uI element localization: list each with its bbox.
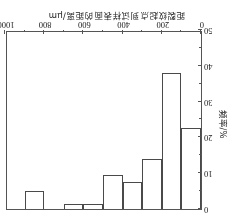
histogram-bar — [142, 159, 162, 209]
histogram-bar — [103, 175, 123, 209]
x-tick-mark — [200, 30, 201, 34]
y-tick-label: 10 — [204, 169, 214, 179]
y-minor-tick-mark — [200, 47, 203, 48]
y-minor-tick-mark — [200, 154, 203, 155]
histogram-bar — [25, 191, 45, 209]
x-tick-mark — [161, 30, 162, 34]
y-tick-mark — [198, 172, 202, 173]
y-tick-mark — [198, 136, 202, 137]
plot-area — [6, 31, 202, 210]
y-minor-tick-mark — [200, 190, 203, 191]
y-tick-label: 30 — [204, 98, 214, 108]
x-minor-tick-mark — [24, 30, 25, 33]
y-tick-mark — [198, 101, 202, 102]
x-tick-label: 200 — [156, 20, 169, 30]
x-tick-mark — [43, 30, 44, 34]
y-tick-label: 20 — [204, 133, 214, 143]
y-tick-mark — [198, 65, 202, 66]
histogram-bar — [83, 204, 103, 209]
histogram-bar — [181, 128, 201, 209]
x-minor-tick-mark — [180, 30, 181, 33]
histogram-bar — [162, 73, 182, 209]
x-minor-tick-mark — [141, 30, 142, 33]
histogram-bar — [123, 182, 143, 209]
histogram-bar — [64, 204, 84, 209]
x-tick-mark — [4, 30, 5, 34]
x-tick-label: 1000 — [0, 20, 15, 30]
x-tick-label: 400 — [117, 20, 130, 30]
y-minor-tick-mark — [200, 119, 203, 120]
chart-figure: 距裂纹起点到试样表面的距离/μm 频率/% 020040060080010000… — [0, 0, 234, 218]
x-minor-tick-mark — [102, 30, 103, 33]
y-tick-label: 50 — [204, 26, 214, 36]
x-minor-tick-mark — [63, 30, 64, 33]
x-tick-mark — [122, 30, 123, 34]
x-tick-label: 600 — [78, 20, 91, 30]
y-tick-mark — [198, 208, 202, 209]
y-tick-label: 40 — [204, 62, 214, 72]
x-tick-label: 800 — [39, 20, 52, 30]
y-tick-label: 0 — [204, 205, 214, 215]
x-tick-mark — [82, 30, 83, 34]
y-minor-tick-mark — [200, 83, 203, 84]
y-axis-title: 频率/% — [218, 110, 230, 139]
